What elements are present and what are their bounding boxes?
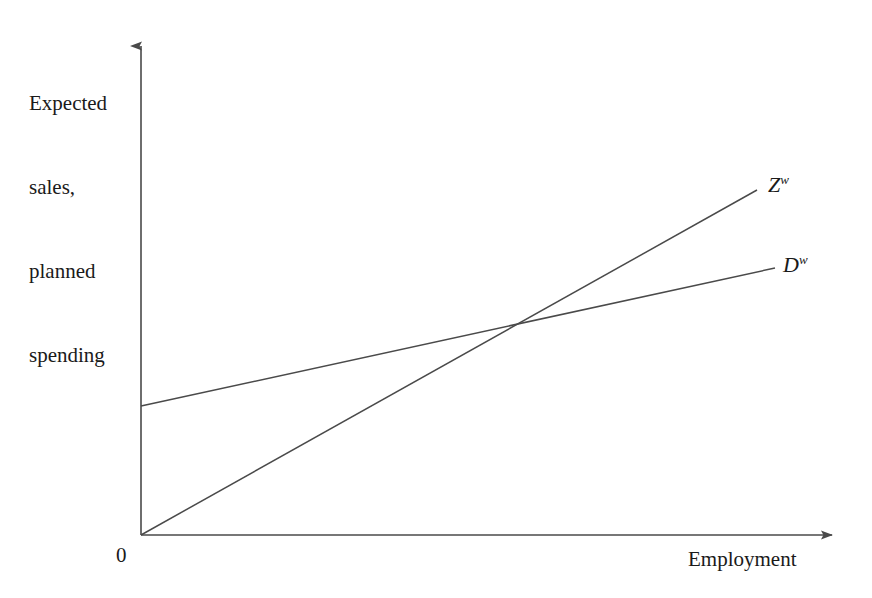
chart-canvas <box>0 0 872 598</box>
y-axis-label-line-1: Expected <box>29 89 107 117</box>
y-axis-label-line-3: planned <box>29 257 107 285</box>
demand-curve-symbol: D <box>783 252 799 277</box>
y-axis-label-line-4: spending <box>29 341 107 369</box>
y-axis-label: Expected sales, planned spending <box>29 33 107 425</box>
supply-curve-symbol: Z <box>768 172 780 197</box>
demand-curve-d <box>141 268 775 406</box>
x-axis-label: Employment <box>688 545 797 573</box>
supply-curve-exponent: w <box>780 172 789 187</box>
origin-label: 0 <box>116 543 127 568</box>
demand-curve-exponent: w <box>799 252 808 267</box>
economics-diagram: Expected sales, planned spending Employm… <box>0 0 872 598</box>
supply-curve-z <box>141 190 757 535</box>
supply-curve-label: Zw <box>768 172 789 198</box>
demand-curve-label: Dw <box>783 252 808 278</box>
y-axis-label-line-2: sales, <box>29 173 107 201</box>
